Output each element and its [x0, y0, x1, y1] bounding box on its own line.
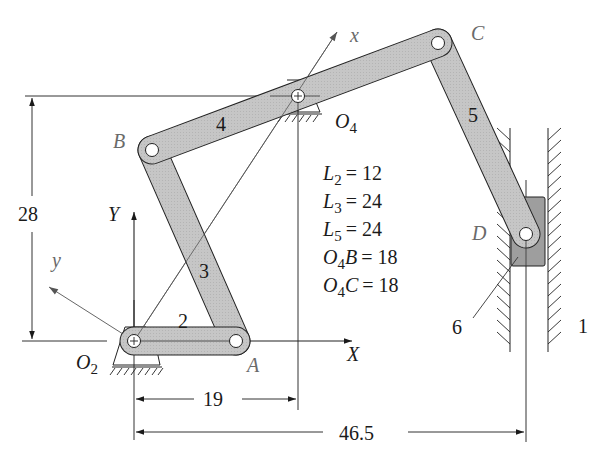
dimension-lines	[22, 96, 526, 442]
axis-label-y-global: Y	[108, 203, 121, 225]
link-label-1: 1	[578, 315, 588, 337]
dimension-28: 28	[18, 203, 38, 225]
axis-label-x-local: x	[349, 24, 359, 46]
dimension-19: 19	[203, 388, 223, 410]
axis-label-y-local: y	[50, 249, 61, 272]
mechanism-diagram: 2 3 4 5 6 1 O2 A B C D O4 X Y x y 28 19 …	[0, 0, 598, 471]
svg-text:L2= 12: L2= 12	[322, 162, 382, 188]
link-label-5: 5	[468, 104, 478, 126]
point-label-o2: O2	[76, 351, 98, 377]
svg-text:L3= 24: L3= 24	[322, 190, 382, 216]
svg-text:O4C= 18: O4C= 18	[323, 274, 399, 300]
link-label-6: 6	[452, 316, 462, 338]
point-label-d: D	[471, 222, 487, 244]
link-label-3: 3	[199, 260, 209, 282]
point-label-b: B	[113, 130, 125, 152]
link-label-2: 2	[178, 310, 188, 332]
link-label-4: 4	[216, 113, 226, 135]
point-label-a: A	[245, 354, 260, 376]
joint-a	[230, 335, 243, 348]
svg-text:L5= 24: L5= 24	[322, 218, 382, 244]
joint-c	[432, 37, 445, 50]
svg-text:O4B= 18: O4B= 18	[323, 246, 397, 272]
dimension-46-5: 46.5	[339, 422, 374, 444]
axis-label-x-global: X	[346, 343, 360, 365]
joint-b	[146, 144, 159, 157]
given-values: L2= 12 L3= 24 L5= 24 O4B= 18 O4C= 18	[322, 162, 399, 300]
point-label-c: C	[471, 22, 485, 44]
point-label-o4: O4	[335, 110, 357, 136]
local-axes	[49, 32, 337, 341]
joint-d	[520, 228, 533, 241]
leader-line-6	[473, 257, 518, 318]
